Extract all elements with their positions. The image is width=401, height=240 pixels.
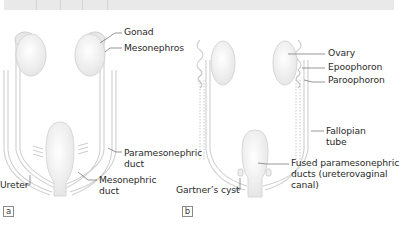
label-fallopian-tube-line2: tube [326, 137, 347, 148]
label-paroophoron: Paroophoron [328, 75, 385, 86]
label-mesonephric-duct-line1: Mesonephric [99, 175, 156, 186]
panel-b-organs [211, 41, 297, 197]
label-fallopian-tube-line1: Fallopian [326, 126, 366, 137]
label-paramesonephric-duct-line2: duct [124, 159, 144, 170]
label-fused-paramesonephric-line1: Fused paramesonephric [291, 158, 399, 169]
panel-tag-b: b [182, 206, 193, 217]
label-mesonephric-duct-line2: duct [99, 186, 119, 197]
panel-tag-a: a [3, 206, 14, 217]
label-fused-paramesonephric-line2: ducts (ureterovaginal [291, 169, 387, 180]
label-epoophoron: Epoophoron [328, 62, 382, 73]
label-ureter: Ureter [0, 180, 28, 191]
label-gonad: Gonad [124, 27, 154, 38]
label-mesonephros: Mesonephros [124, 43, 184, 54]
label-fused-paramesonephric-line3: canal) [291, 180, 319, 191]
label-ovary: Ovary [328, 48, 355, 59]
label-gartners-cyst: Gartner’s cyst [176, 185, 240, 196]
label-paramesonephric-duct-line1: Paramesonephric [124, 148, 202, 159]
